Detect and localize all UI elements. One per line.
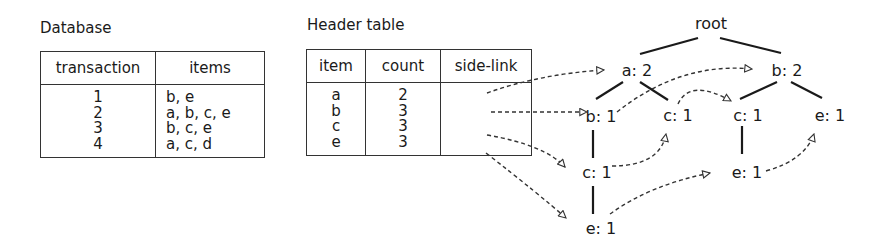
tree-node-b-c1: c: 1 xyxy=(733,106,762,125)
tree-node-a-b-c-e1: e: 1 xyxy=(586,219,617,238)
tree-node-a-b1: b: 1 xyxy=(586,107,617,126)
edge-root-b2 xyxy=(720,38,781,53)
tree-node-b-e1: e: 1 xyxy=(815,106,846,125)
edge-a2-c1 xyxy=(640,82,668,100)
edge-b2-e1 xyxy=(791,82,822,98)
side-link-c1-c1 xyxy=(612,134,666,166)
tree-node-b-c-e1: e: 1 xyxy=(732,163,763,182)
tree-node-b2: b: 2 xyxy=(772,61,803,80)
tree-node-root: root xyxy=(695,14,727,33)
tree-node-a-c1: c: 1 xyxy=(663,106,692,125)
side-link-header-a xyxy=(487,70,604,93)
tree-node-a2: a: 2 xyxy=(622,61,652,80)
edge-root-a2 xyxy=(640,38,698,54)
side-link-c1-c1-right xyxy=(678,90,731,104)
side-link-header-e xyxy=(486,153,566,218)
side-link-arrows xyxy=(486,68,814,218)
tree-node-a-b-c1: c: 1 xyxy=(582,163,611,182)
side-link-e1-e1-right xyxy=(766,134,814,171)
edge-a2-b1 xyxy=(596,82,623,99)
edge-b2-c1 xyxy=(740,82,777,99)
side-link-e1-e1 xyxy=(610,173,710,214)
